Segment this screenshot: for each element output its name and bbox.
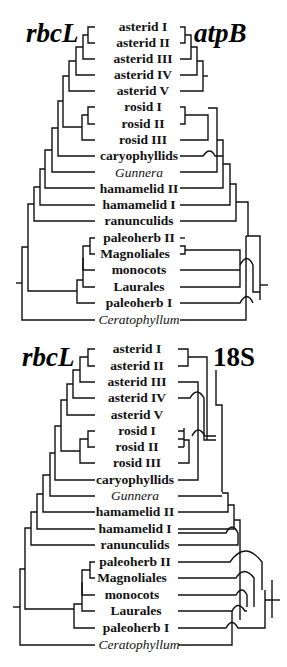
right-tree: [178, 349, 280, 645]
taxon-labels: asterid I asterid II asterid III asterid…: [96, 341, 180, 652]
panel-top: rbcL atpB asterid I asterid II asterid I…: [16, 18, 268, 327]
taxon-label: asterid II: [110, 358, 164, 373]
taxon-label: asterid III: [108, 374, 167, 389]
taxon-label: asterid II: [116, 35, 170, 50]
left-gene-label: rbcL: [22, 342, 74, 372]
taxon-label: rosid I: [118, 423, 156, 438]
taxon-label: Ceratophyllum: [99, 312, 180, 327]
tanglegram-figure: rbcL atpB asterid I asterid II asterid I…: [0, 0, 287, 667]
taxon-label: Gunnera: [115, 165, 163, 180]
taxon-label: monocots: [105, 587, 160, 602]
taxon-label: rosid I: [124, 99, 162, 114]
taxon-label: Ceratophyllum: [99, 637, 180, 652]
taxon-label: caryophyllids: [96, 472, 174, 487]
taxon-label: asterid III: [114, 51, 173, 66]
taxon-label: paleoherb I: [106, 295, 172, 310]
taxon-label: ranunculids: [104, 213, 173, 228]
left-gene-label: rbcL: [26, 18, 78, 48]
taxon-label: Magnoliales: [100, 246, 170, 261]
taxon-label: asterid V: [117, 83, 170, 98]
taxon-label: rosid III: [119, 132, 167, 147]
taxon-label: ranunculids: [100, 537, 169, 552]
taxon-label: hamamelid II: [96, 504, 174, 519]
taxon-label: asterid IV: [114, 67, 172, 82]
taxon-label: rosid III: [113, 455, 161, 470]
left-tree: [13, 349, 95, 645]
taxon-label: paleoherb I: [103, 620, 169, 635]
taxon-labels: asterid I asterid II asterid III asterid…: [99, 19, 180, 327]
taxon-label: caryophyllids: [100, 148, 178, 163]
taxon-label: paleoherb II: [99, 554, 171, 569]
left-tree: [16, 27, 95, 320]
taxon-label: hamamelid I: [102, 197, 175, 212]
taxon-label: asterid V: [111, 407, 164, 422]
taxon-label: asterid IV: [108, 390, 166, 405]
taxon-label: Laurales: [113, 279, 164, 294]
panel-bottom: rbcL 18S asterid I asterid II asterid II…: [13, 341, 280, 652]
right-gene-label: atpB: [194, 18, 247, 48]
right-gene-label: 18S: [213, 342, 255, 372]
taxon-label: Laurales: [110, 603, 161, 618]
taxon-label: hamamelid I: [98, 521, 171, 536]
right-tree: [180, 27, 268, 320]
taxon-label: asterid I: [119, 19, 167, 34]
taxon-label: Magnoliales: [97, 570, 167, 585]
taxon-label: paleoherb II: [103, 230, 175, 245]
taxon-label: rosid II: [122, 116, 165, 131]
taxon-label: monocots: [112, 262, 167, 277]
taxon-label: Gunnera: [111, 488, 159, 503]
taxon-label: rosid II: [116, 439, 159, 454]
taxon-label: asterid I: [113, 341, 161, 356]
taxon-label: hamamelid II: [100, 181, 178, 196]
